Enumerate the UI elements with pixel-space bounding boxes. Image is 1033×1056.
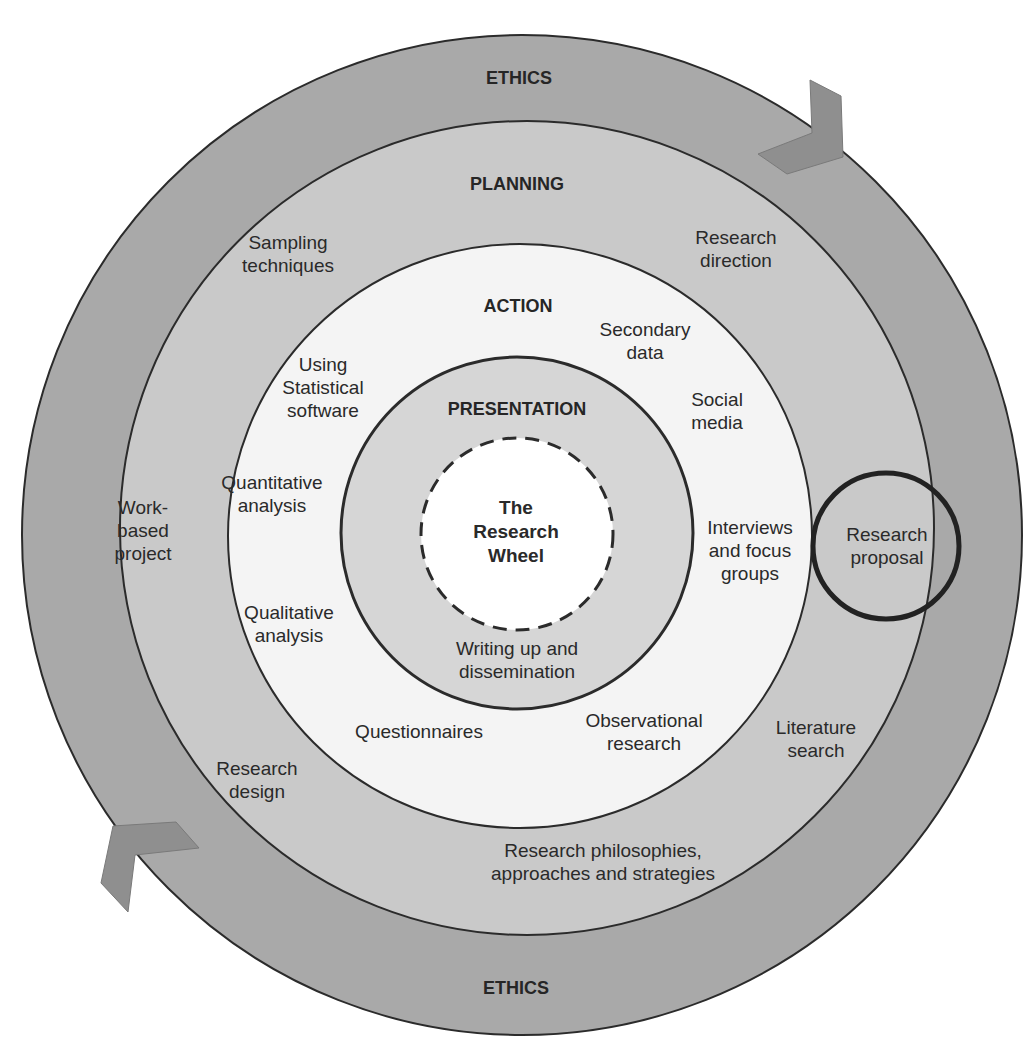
questionnaires-label: Questionnaires	[355, 720, 483, 743]
using-statistical-software-label: Using Statistical software	[282, 353, 363, 422]
research-proposal-label: Research proposal	[846, 523, 927, 569]
observational-research-label: Observational research	[585, 709, 702, 755]
sampling-line-2: techniques	[242, 254, 334, 277]
design-line-2: design	[216, 780, 297, 803]
sampling-techniques-label: Sampling techniques	[242, 231, 334, 277]
proposal-line-1: Research	[846, 523, 927, 546]
research-philosophies-label: Research philosophies, approaches and st…	[491, 839, 715, 885]
writing-line-2: dissemination	[456, 660, 578, 683]
social-media-label: Social media	[691, 388, 743, 434]
social-line-1: Social	[691, 388, 743, 411]
center-line-3: Wheel	[473, 544, 559, 568]
workbased-line-1: Work-	[114, 496, 171, 519]
statistical-line-2: Statistical	[282, 376, 363, 399]
ethics-label-top: ETHICS	[486, 67, 552, 90]
quantitative-analysis-label: Quantitative analysis	[221, 471, 322, 517]
center-line-2: Research	[473, 520, 559, 544]
direction-line-2: direction	[695, 249, 776, 272]
work-based-project-label: Work- based project	[114, 496, 171, 565]
presentation-label: PRESENTATION	[448, 398, 586, 421]
center-line-1: The	[473, 496, 559, 520]
direction-line-1: Research	[695, 226, 776, 249]
interviews-line-1: Interviews	[707, 516, 793, 539]
statistical-line-3: software	[282, 399, 363, 422]
philosophies-line-1: Research philosophies,	[491, 839, 715, 862]
interviews-focus-groups-label: Interviews and focus groups	[707, 516, 793, 585]
observational-line-2: research	[585, 732, 702, 755]
center-title: The Research Wheel	[473, 496, 559, 568]
writing-line-1: Writing up and	[456, 637, 578, 660]
literature-line-2: search	[776, 739, 856, 762]
workbased-line-3: project	[114, 542, 171, 565]
ethics-label-bottom: ETHICS	[483, 977, 549, 1000]
action-label: ACTION	[484, 295, 553, 318]
research-direction-label: Research direction	[695, 226, 776, 272]
literature-search-label: Literature search	[776, 716, 856, 762]
qual-line-2: analysis	[244, 624, 334, 647]
workbased-line-2: based	[114, 519, 171, 542]
social-line-2: media	[691, 411, 743, 434]
planning-label: PLANNING	[470, 173, 564, 196]
proposal-line-2: proposal	[846, 546, 927, 569]
quant-line-2: analysis	[221, 494, 322, 517]
quant-line-1: Quantitative	[221, 471, 322, 494]
research-design-label: Research design	[216, 757, 297, 803]
qual-line-1: Qualitative	[244, 601, 334, 624]
secondary-line-1: Secondary	[600, 318, 691, 341]
observational-line-1: Observational	[585, 709, 702, 732]
writing-up-dissemination-label: Writing up and dissemination	[456, 637, 578, 683]
interviews-line-2: and focus	[707, 539, 793, 562]
interviews-line-3: groups	[707, 562, 793, 585]
sampling-line-1: Sampling	[242, 231, 334, 254]
philosophies-line-2: approaches and strategies	[491, 862, 715, 885]
secondary-data-label: Secondary data	[600, 318, 691, 364]
literature-line-1: Literature	[776, 716, 856, 739]
design-line-1: Research	[216, 757, 297, 780]
qualitative-analysis-label: Qualitative analysis	[244, 601, 334, 647]
statistical-line-1: Using	[282, 353, 363, 376]
secondary-line-2: data	[600, 341, 691, 364]
